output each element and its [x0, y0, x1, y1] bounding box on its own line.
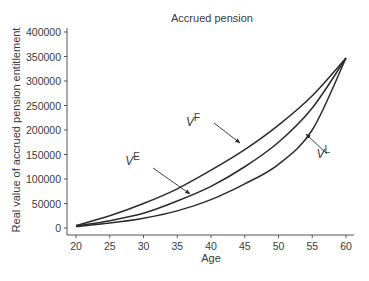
series-line-F: [76, 58, 346, 226]
y-tick-label: 100000: [26, 173, 61, 185]
y-tick-label: 150000: [26, 149, 61, 161]
annotation-L: VL: [316, 144, 330, 161]
curve-annotations: VFVEVL: [125, 112, 330, 194]
y-tick-label: 50000: [32, 198, 61, 210]
x-tick-label: 20: [70, 240, 82, 252]
y-axis-label: Real value of accrued pension entitlemen…: [10, 28, 22, 233]
x-tick-label: 45: [239, 240, 251, 252]
chart-title: Accrued pension: [171, 12, 253, 24]
y-tick-label: 300000: [26, 75, 61, 87]
x-tick-label: 30: [138, 240, 150, 252]
y-tick-label: 200000: [26, 124, 61, 136]
x-tick-label: 55: [306, 240, 318, 252]
x-axis: 202530354045505560: [67, 235, 354, 252]
y-tick-label: 350000: [26, 51, 61, 63]
x-tick-label: 25: [104, 240, 116, 252]
y-axis: 0500001000001500002000002500003000003500…: [26, 26, 67, 235]
x-tick-label: 40: [205, 240, 217, 252]
x-tick-label: 50: [273, 240, 285, 252]
series-line-E: [76, 58, 346, 226]
x-tick-label: 60: [340, 240, 352, 252]
accrued-pension-chart: Accrued pension 050000100000150000200000…: [0, 0, 369, 281]
x-axis-label: Age: [201, 252, 221, 264]
y-tick-label: 400000: [26, 26, 61, 38]
series-lines: [76, 58, 346, 227]
x-tick-label: 35: [171, 240, 183, 252]
annotation-E: VE: [125, 151, 140, 168]
series-line-L: [76, 58, 346, 227]
y-tick-label: 0: [55, 222, 61, 234]
y-tick-label: 250000: [26, 100, 61, 112]
annotation-F: VF: [186, 112, 200, 129]
